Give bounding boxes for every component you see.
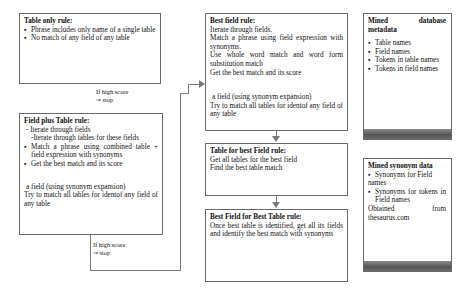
connector-bottom-left <box>90 235 91 270</box>
list-item: Table names <box>368 39 446 48</box>
spacer <box>210 77 343 93</box>
list-item: Tokens in table names <box>368 56 446 65</box>
table-for-best-field-step-1: Get all tables for the best field <box>210 156 343 165</box>
mined-database-metadata-list: Table names Field names Tokens in table … <box>368 39 446 73</box>
best-field-rule-box: Best field rule: Iterate through fields.… <box>205 13 348 131</box>
mined-database-metadata-box: Mined database metadata Table names Fiel… <box>363 13 452 140</box>
mined-synonym-data-list: Synonyms for Field names Synonyms for to… <box>368 171 446 205</box>
field-plus-table-step-1: - Iterate through fields <box>24 126 158 135</box>
list-item-text: Synonyms for Field names <box>368 171 432 188</box>
arrow-down-icon <box>272 136 280 142</box>
mined-synonym-data-source: Obtained from thesaurus.com <box>368 205 446 222</box>
table-only-rule-title: Table only rule: <box>24 17 156 26</box>
best-field-note-2: Try to match all tables for identof any … <box>210 102 343 119</box>
list-item: Synonyms for tokens in Field names <box>368 188 446 205</box>
field-plus-table-note-2: Try to match all tables for identof any … <box>24 191 158 208</box>
table-only-rule-list: Phrase includes only name of a single ta… <box>24 26 156 43</box>
table-for-best-field-rule-box: Table for best Field rule: Get all table… <box>205 143 348 196</box>
best-field-for-best-table-text: Once best table is identified, get all i… <box>210 222 343 239</box>
stop-label-1-action: ⇒ stop <box>96 96 128 104</box>
list-item: Get the best match and its score <box>24 160 158 169</box>
mined-synonym-data-title: Mined synonym data <box>368 162 446 171</box>
table-only-rule-box: Table only rule: Phrase includes only na… <box>19 13 161 84</box>
mined-synonym-data-box: Mined synonym data Synonyms for Field na… <box>363 158 452 272</box>
best-field-step-3: Use whole word match and word form subst… <box>210 51 343 68</box>
best-field-for-best-table-rule-box: Best Field for Best Table rule: Once bes… <box>205 209 348 282</box>
spacer <box>24 169 158 183</box>
stop-label-1-condition: If high score <box>96 88 128 96</box>
stop-label-2: If high score ⇒ stop <box>93 241 125 256</box>
best-field-step-2: Match a phrase using field expression wi… <box>210 34 343 51</box>
connector-step-h1 <box>180 93 188 94</box>
field-plus-table-rule-title: Field plus Table rule: <box>24 117 158 126</box>
field-plus-table-step-2: -Iterate through tables for these fields <box>24 134 158 143</box>
best-field-note-1: a field (using synonym expansion) <box>210 93 343 102</box>
best-field-rule-title: Best field rule: <box>210 17 343 26</box>
best-field-step-4: Get the best match and its score <box>210 69 343 78</box>
best-field-step-1: Iterate through fields. <box>210 26 343 35</box>
field-plus-table-note-1: a field (using synonym expansion) <box>24 183 158 192</box>
stop-label-2-action: ⇒ stop <box>93 249 125 257</box>
table-for-best-field-step-2: Find the best table match <box>210 164 343 173</box>
field-plus-table-rule-list: Match a phrase using combined table + fi… <box>24 143 158 169</box>
stop-label-2-condition: If high score <box>93 241 125 249</box>
metadata-footer-band <box>364 129 451 139</box>
list-item: Match a phrase using combined table + fi… <box>24 143 158 160</box>
table-for-best-field-rule-title: Table for best Field rule: <box>210 147 343 156</box>
list-item: Phrase includes only name of a single ta… <box>24 26 156 35</box>
connector-step-v <box>188 84 189 94</box>
arrow-down-icon <box>272 202 280 208</box>
connector-vertical <box>180 93 181 271</box>
list-item: Tokens in field names <box>368 65 446 74</box>
stop-label-1: If high score ⇒ stop <box>96 88 128 103</box>
synonym-footer-band <box>364 261 451 271</box>
list-item: Field names <box>368 48 446 57</box>
field-plus-table-rule-box: Field plus Table rule: - Iterate through… <box>19 113 163 235</box>
mined-database-metadata-title: Mined database metadata <box>368 17 446 34</box>
best-field-for-best-table-rule-title: Best Field for Best Table rule: <box>210 213 343 222</box>
list-item: Synonyms for Field names <box>368 171 446 188</box>
list-item: No match of any field of any table <box>24 34 156 43</box>
connector-bottom <box>90 270 180 271</box>
